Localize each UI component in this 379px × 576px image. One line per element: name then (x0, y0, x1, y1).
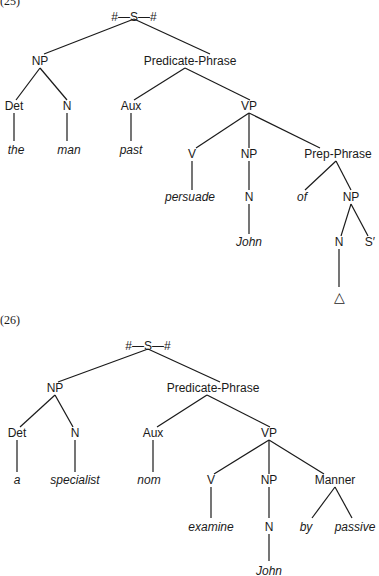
tree25-node-sprime: S′ (365, 235, 375, 249)
tree26-node-manner: Manner (315, 473, 356, 487)
tree-edge (207, 395, 270, 427)
tree26-node-predp: Predicate-Phrase (167, 381, 260, 395)
tree26-node-vp: VP (261, 426, 277, 440)
tree26-node-n2: N (265, 520, 274, 534)
tree25-node-n3: N (335, 235, 344, 249)
tree25-node-n2: N (245, 190, 254, 204)
tree25-node-of: of (297, 190, 307, 204)
tree26-node-np1: NP (47, 381, 64, 395)
tree26-node-np2: NP (261, 473, 278, 487)
tree25-node-prepp: Prep-Phrase (304, 147, 371, 161)
tree25-node-persuade: persuade (165, 190, 215, 204)
tree25-node-past: past (120, 143, 143, 157)
tree-edge (20, 395, 55, 427)
tree25-node-aux: Aux (121, 99, 142, 113)
tree-edge (336, 161, 351, 190)
tree26-node-a: a (14, 473, 21, 487)
tree25-node-vp: VP (241, 99, 257, 113)
tree26-node-det: Det (8, 426, 27, 440)
tree-edge (214, 440, 269, 474)
tree26-node-examine: examine (188, 520, 233, 534)
tree-edge (157, 395, 207, 427)
tree25-node-det: Det (5, 99, 24, 113)
example-number-26: (26) (0, 313, 20, 328)
tree-edge (312, 487, 335, 518)
tree-edge (16, 68, 40, 100)
example-number-25: (25) (0, 0, 20, 9)
tree25-node-np2: NP (241, 147, 258, 161)
tree25-node-the: the (8, 143, 25, 157)
tree-edge (269, 440, 324, 474)
tree-edge (351, 204, 368, 236)
tree26-node-passive: passive (335, 520, 376, 534)
tree-edge (335, 487, 352, 518)
tree-edge (148, 349, 220, 382)
tree26-node-by: by (300, 520, 313, 534)
tree-edge (40, 68, 67, 100)
tree-edge (134, 68, 185, 100)
tree-edge (341, 204, 351, 236)
tree26-node-nom: nom (137, 473, 160, 487)
tree-edge (44, 19, 134, 54)
tree-edge (55, 395, 73, 427)
tree26-node-aux: Aux (143, 426, 164, 440)
tree-edge (58, 349, 148, 382)
tree25-node-np1: NP (32, 54, 49, 68)
tree-edge (249, 113, 320, 148)
tree25-node-john1: John (236, 235, 262, 249)
tree25-node-man: man (57, 143, 80, 157)
tree26-node-n1: N (71, 426, 80, 440)
tree26-node-v: V (207, 473, 215, 487)
tree25-node-s: #—S—# (111, 10, 156, 24)
tree25-node-n1: N (63, 99, 72, 113)
tree-edges (0, 0, 379, 576)
tree25-node-delta: △ (334, 290, 345, 304)
tree25-node-v: V (188, 147, 196, 161)
tree25-node-predp: Predicate-Phrase (144, 54, 237, 68)
tree25-node-np3: NP (343, 190, 360, 204)
tree26-node-specialist: specialist (50, 473, 99, 487)
tree26-node-john: John (256, 564, 282, 576)
tree-edge (185, 68, 250, 100)
tree-edge (305, 161, 336, 190)
tree26-node-s: #—S—# (125, 339, 170, 353)
tree-edge (196, 113, 249, 148)
tree-edge (134, 19, 210, 54)
